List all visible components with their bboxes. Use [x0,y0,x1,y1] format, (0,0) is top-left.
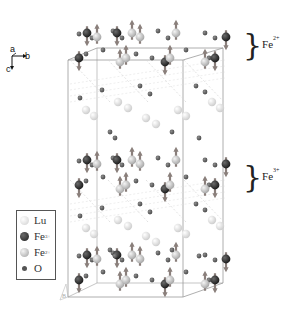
annotation-label: Fe [262,38,273,50]
legend-item-o: O [20,261,42,275]
brace-icon: } [243,159,262,194]
lu-layer-guides [70,60,225,222]
legend-item-fe3: Fe3+ [20,229,50,243]
fe3-swatch-icon [20,232,29,241]
atoms-layer [75,20,231,298]
brace-icon: } [243,27,262,62]
lu-swatch-icon [20,216,29,225]
axis-label-c: c [6,64,11,74]
axis-label-a: a [10,44,15,54]
legend-label: O [34,262,42,274]
legend: Lu Fe3+ Fe2+ O [16,210,56,280]
axis-triad: a b c [6,44,46,76]
legend-charge: 2+ [45,250,50,255]
o-swatch-icon [22,266,27,271]
legend-label: Lu [34,214,46,226]
legend-label: Fe [34,246,45,258]
fe3-layer-annotation: }Fe3+ [243,162,279,192]
crystal-structure-figure: B a b c Lu Fe3+ Fe2+ O [0,0,288,310]
legend-charge: 3+ [45,234,50,239]
fe2-layer-annotation: }Fe2+ [243,30,279,60]
annotation-charge: 3+ [273,167,279,173]
legend-item-lu: Lu [20,213,46,227]
legend-label: Fe [34,230,45,242]
annotation-label: Fe [262,170,273,182]
annotation-charge: 2+ [273,35,279,41]
svg-text:B: B [62,293,66,299]
fe2-swatch-icon [20,248,29,257]
legend-item-fe2: Fe2+ [20,245,50,259]
axis-label-b: b [25,51,30,61]
